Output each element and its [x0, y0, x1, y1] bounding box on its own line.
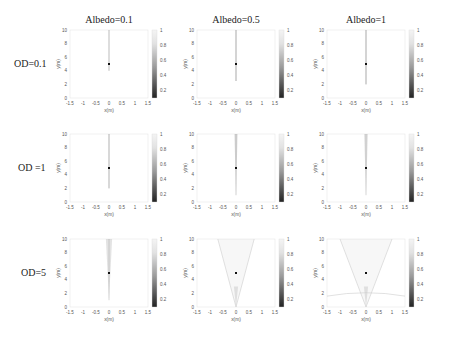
colorbar-tick-label: 1 — [417, 132, 420, 137]
colorbar-tick-label: 0.2 — [417, 297, 424, 302]
x-tick-label: 0 — [235, 205, 238, 210]
y-tick-label: 6 — [191, 55, 194, 60]
x-tick-label: -1 — [81, 101, 85, 106]
x-tick-label: 0 — [365, 205, 368, 210]
y-axis-label: y(m) — [56, 268, 61, 278]
y-tick-label: 4 — [64, 68, 67, 73]
y-tick-label: 0 — [191, 96, 194, 101]
x-tick-label: 1.5 — [145, 310, 152, 315]
x-tick-label: 0 — [365, 310, 368, 315]
y-tick-label: 10 — [319, 28, 325, 33]
x-tick-label: 1.5 — [145, 101, 152, 106]
colorbar-tick-label: 0.6 — [417, 162, 424, 167]
y-tick-label: 8 — [321, 145, 324, 150]
y-tick-label: 2 — [64, 82, 67, 87]
x-axis-label: x(m) — [104, 212, 114, 217]
x-tick-label: 0 — [108, 101, 111, 106]
x-tick-label: 0 — [235, 310, 238, 315]
source-point — [108, 167, 110, 169]
y-tick-label: 8 — [64, 145, 67, 150]
y-tick-label: 2 — [191, 291, 194, 296]
heatmap-panel: 0246810-1.5-1-0.500.511.5x(m)y(m)0.20.40… — [287, 126, 437, 236]
y-tick-label: 0 — [321, 200, 324, 205]
y-tick-label: 6 — [321, 159, 324, 164]
colorbar-tick-label: 0.4 — [417, 177, 424, 182]
heatmap-panel: 0246810-1.5-1-0.500.511.5x(m)y(m)0.20.40… — [157, 231, 307, 341]
x-axis-label: x(m) — [104, 108, 114, 113]
colorbar-tick-label: 0.6 — [417, 267, 424, 272]
source-point — [235, 167, 237, 169]
y-tick-label: 4 — [191, 277, 194, 282]
x-tick-label: -1 — [81, 205, 85, 210]
colorbar-tick-label: 1 — [417, 237, 420, 242]
colorbar-tick-label: 1 — [417, 28, 420, 33]
x-tick-label: 1.5 — [402, 310, 409, 315]
colorbar — [279, 239, 284, 307]
y-tick-label: 4 — [321, 277, 324, 282]
x-tick-label: 0.5 — [119, 310, 126, 315]
y-tick-label: 8 — [321, 250, 324, 255]
y-tick-label: 0 — [321, 96, 324, 101]
heatmap-panel: 0246810-1.5-1-0.500.511.5x(m)y(m)0.20.40… — [157, 22, 307, 132]
x-tick-label: -0.5 — [349, 205, 357, 210]
x-tick-label: -0.5 — [219, 310, 227, 315]
source-point — [365, 167, 367, 169]
x-tick-label: 1 — [134, 101, 137, 106]
x-tick-label: 0 — [108, 310, 111, 315]
x-axis-label: x(m) — [361, 317, 371, 322]
y-tick-label: 0 — [64, 200, 67, 205]
x-tick-label: 1 — [134, 205, 137, 210]
y-tick-label: 4 — [64, 277, 67, 282]
x-tick-label: 1 — [261, 205, 264, 210]
y-axis-label: y(m) — [313, 59, 318, 69]
x-tick-label: -1.5 — [66, 310, 74, 315]
y-tick-label: 10 — [319, 237, 325, 242]
y-tick-label: 8 — [191, 145, 194, 150]
y-tick-label: 8 — [321, 41, 324, 46]
y-tick-label: 6 — [191, 159, 194, 164]
heatmap-panel: 0246810-1.5-1-0.500.511.5x(m)y(m)0.20.40… — [157, 126, 307, 236]
colorbar-tick-label: 0.4 — [417, 73, 424, 78]
x-tick-label: -1 — [338, 310, 342, 315]
y-axis-label: y(m) — [183, 268, 188, 278]
x-tick-label: -0.5 — [219, 205, 227, 210]
y-axis-label: y(m) — [183, 163, 188, 173]
x-tick-label: 1 — [391, 101, 394, 106]
y-axis-label: y(m) — [56, 59, 61, 69]
x-tick-label: 0.5 — [246, 310, 253, 315]
x-tick-label: 1.5 — [402, 101, 409, 106]
x-tick-label: -1.5 — [193, 205, 201, 210]
y-tick-label: 0 — [64, 305, 67, 310]
colorbar — [409, 134, 414, 202]
y-tick-label: 4 — [191, 172, 194, 177]
x-tick-label: 0.5 — [376, 310, 383, 315]
x-axis-label: x(m) — [231, 108, 241, 113]
x-tick-label: 1 — [261, 310, 264, 315]
y-tick-label: 0 — [321, 305, 324, 310]
source-point — [235, 63, 237, 65]
y-tick-label: 4 — [321, 68, 324, 73]
y-tick-label: 10 — [189, 28, 195, 33]
x-tick-label: 1.5 — [272, 101, 279, 106]
x-tick-label: 1 — [261, 101, 264, 106]
colorbar — [279, 134, 284, 202]
y-tick-label: 10 — [189, 132, 195, 137]
x-tick-label: 1.5 — [272, 205, 279, 210]
source-point — [365, 63, 367, 65]
y-axis-label: y(m) — [313, 268, 318, 278]
y-tick-label: 10 — [62, 237, 68, 242]
x-tick-label: -1.5 — [193, 310, 201, 315]
x-tick-label: -1.5 — [66, 205, 74, 210]
y-axis-label: y(m) — [313, 163, 318, 173]
intensity-streak — [365, 30, 367, 84]
colorbar-tick-label: 0.8 — [417, 252, 424, 257]
y-tick-label: 0 — [191, 200, 194, 205]
x-tick-label: -0.5 — [349, 310, 357, 315]
x-tick-label: 1 — [134, 310, 137, 315]
colorbar-tick-label: 0.2 — [417, 192, 424, 197]
y-tick-label: 2 — [64, 186, 67, 191]
x-tick-label: 1.5 — [402, 205, 409, 210]
y-tick-label: 0 — [191, 305, 194, 310]
y-tick-label: 0 — [64, 96, 67, 101]
x-axis-label: x(m) — [231, 317, 241, 322]
